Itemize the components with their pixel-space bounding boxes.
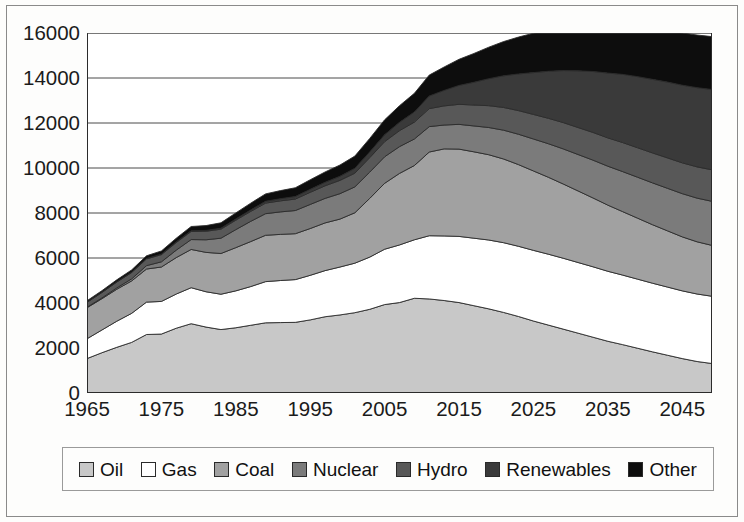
legend-swatch-oil-icon — [79, 462, 94, 477]
x-axis-tick-label: 2035 — [568, 399, 648, 420]
legend-label: Oil — [100, 460, 123, 479]
x-axis-tick-label: 2015 — [419, 399, 499, 420]
y-axis-tick-label: 16000 — [4, 23, 80, 44]
legend-item-nuclear[interactable]: Nuclear — [292, 460, 378, 479]
legend-item-coal[interactable]: Coal — [214, 460, 274, 479]
legend-item-hydro[interactable]: Hydro — [396, 460, 468, 479]
legend-swatch-other-icon — [628, 462, 643, 477]
y-axis-tick-label: 12000 — [4, 113, 80, 134]
y-axis-tick-label: 10000 — [4, 158, 80, 179]
legend-item-oil[interactable]: Oil — [79, 460, 123, 479]
x-axis-tick-label: 1985 — [196, 399, 276, 420]
y-axis-tick-label: 4000 — [4, 293, 80, 314]
x-axis-tick-label: 2025 — [493, 399, 573, 420]
x-axis: 196519751985199520052015202520352045 — [87, 399, 712, 429]
y-axis-tick-label: 2000 — [4, 338, 80, 359]
y-axis-tick-label: 14000 — [4, 68, 80, 89]
x-axis-tick-label: 1965 — [47, 399, 127, 420]
plot-area — [87, 33, 712, 393]
x-axis-tick-label: 1995 — [270, 399, 350, 420]
chart-figure: 1600014000120001000080006000400020000 19… — [0, 0, 744, 522]
legend-label: Other — [649, 460, 697, 479]
legend-item-gas[interactable]: Gas — [141, 460, 197, 479]
legend-swatch-renewables-icon — [485, 462, 500, 477]
y-axis-tick-label: 8000 — [4, 203, 80, 224]
x-axis-tick-label: 2045 — [642, 399, 722, 420]
legend-swatch-hydro-icon — [396, 462, 411, 477]
legend-swatch-nuclear-icon — [292, 462, 307, 477]
chart-legend: OilGasCoalNuclearHydroRenewablesOther — [62, 447, 714, 491]
legend-label: Nuclear — [313, 460, 378, 479]
y-axis-tick-label: 6000 — [4, 248, 80, 269]
legend-swatch-gas-icon — [141, 462, 156, 477]
legend-label: Gas — [162, 460, 197, 479]
x-axis-tick-label: 2005 — [345, 399, 425, 420]
stacked-area-plot — [87, 33, 712, 393]
legend-swatch-coal-icon — [214, 462, 229, 477]
legend-item-other[interactable]: Other — [628, 460, 697, 479]
legend-label: Coal — [235, 460, 274, 479]
x-axis-tick-label: 1975 — [121, 399, 201, 420]
y-axis: 1600014000120001000080006000400020000 — [2, 0, 80, 522]
legend-label: Renewables — [506, 460, 611, 479]
legend-item-renewables[interactable]: Renewables — [485, 460, 611, 479]
legend-label: Hydro — [417, 460, 468, 479]
